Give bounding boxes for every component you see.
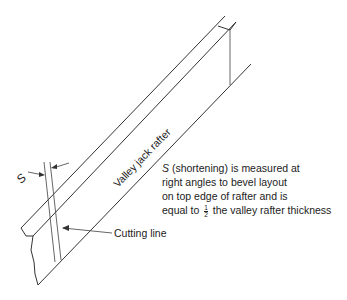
rafter-end-top-2 <box>230 22 236 30</box>
note-line-1: (shortening) is measured at <box>169 162 300 174</box>
s-arrow-left-head <box>39 172 45 177</box>
note-line-2: right angles to bevel layout <box>162 175 331 189</box>
cutting-line <box>50 162 61 260</box>
s-label: S <box>14 171 30 187</box>
cutting-line-label: Cutting line <box>114 227 167 239</box>
cutting-line-arrowhead <box>62 225 69 231</box>
note-line-4-after: the valley rafter thickness <box>210 204 331 216</box>
rafter-broken-end <box>21 228 38 285</box>
note-s-symbol: S <box>162 162 169 174</box>
one-half-fraction: 12 <box>204 205 208 218</box>
note-line-3: on top edge of rafter and is <box>162 189 331 203</box>
valley-jack-rafter-diagram: Valley jack rafter S Cutting line S (sho… <box>0 0 347 300</box>
rafter-end-top <box>218 26 230 30</box>
note-line-4-before: equal to <box>162 204 202 216</box>
s-arrow-right-head <box>51 164 57 169</box>
fraction-numerator: 1 <box>204 205 208 211</box>
cutting-line-leader <box>63 228 112 233</box>
shortening-line-1 <box>44 162 55 262</box>
shortening-note: S (shortening) is measured at right angl… <box>162 161 331 218</box>
fraction-denominator: 2 <box>204 211 208 218</box>
